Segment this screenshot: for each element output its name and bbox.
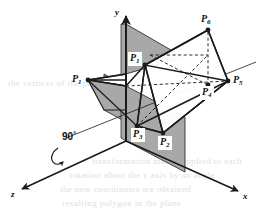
axis-z — [22, 141, 126, 189]
point-label-p1-left-subscript: 1 — [78, 78, 82, 86]
axis-label-x: x — [243, 192, 248, 201]
axis-label-y: y — [115, 8, 119, 17]
axis-label-z: z — [11, 190, 15, 199]
point-label-p1-upper: P1 — [128, 52, 142, 66]
point-label-p1-left: P1 — [72, 74, 82, 86]
point-label-p5: P5 — [233, 75, 243, 87]
figure-container: the vertices of the polygon transformati… — [0, 0, 263, 218]
point-label-p3-subscript: 3 — [139, 133, 143, 141]
point-label-p5-subscript: 5 — [239, 79, 243, 87]
rotation-angle-value: 90 — [62, 131, 73, 142]
degree-symbol: ° — [73, 131, 76, 138]
point-label-p3: P3 — [131, 128, 145, 142]
point-label-p6-subscript: 6 — [207, 18, 211, 26]
vertex-dot-p6 — [206, 28, 211, 33]
point-label-p6: P6 — [201, 14, 211, 26]
diagram-canvas — [0, 0, 263, 218]
rotation-arrow-icon — [52, 148, 63, 164]
vertex-dot-p2 — [161, 131, 166, 136]
point-label-p2: P2 — [158, 136, 172, 150]
point-label-p4: P4 — [200, 86, 214, 100]
vertex-dot-p5 — [226, 79, 231, 84]
point-label-p4-subscript: 4 — [208, 91, 212, 99]
vertex-dot-p1-upper — [143, 63, 148, 68]
vertex-dot-p1-left — [86, 78, 91, 83]
rotation-angle-label: 90° — [62, 131, 76, 142]
point-label-p2-subscript: 2 — [166, 141, 170, 149]
point-label-p1-upper-subscript: 1 — [136, 57, 140, 65]
